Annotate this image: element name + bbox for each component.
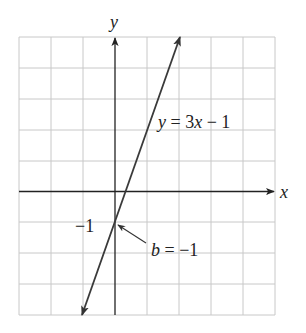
intercept-b: b: [151, 240, 160, 260]
equation-x: x: [193, 112, 202, 132]
intercept-label: b = −1: [151, 240, 198, 260]
x-axis-label: x: [279, 182, 288, 202]
line-y-equals-3x-minus-1: [82, 37, 180, 315]
equation-rest: − 1: [202, 112, 230, 132]
grid: [19, 37, 275, 315]
y-axis-label: y: [108, 12, 118, 32]
y-tick-label-neg1: −1: [75, 216, 94, 236]
graph-canvas: y x −1 y = 3x − 1 b = −1: [0, 0, 306, 333]
equation-label: y = 3x − 1: [156, 112, 230, 132]
intercept-pointer-arrow: [118, 225, 146, 243]
equation-eq: = 3: [166, 112, 194, 132]
equation-y: y: [156, 112, 166, 132]
intercept-rest: = −1: [160, 240, 198, 260]
